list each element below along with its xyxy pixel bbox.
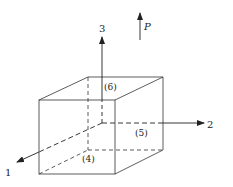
cube-stress-diagram: 3 2 1 P (6) (5) (4) <box>0 0 233 187</box>
axis-1-inner <box>39 123 102 152</box>
axis-2-label: 2 <box>207 119 213 130</box>
cube <box>39 77 163 174</box>
face-4-label: (4) <box>82 154 95 164</box>
face-5-label: (5) <box>135 128 148 138</box>
cube-front-face <box>39 100 115 174</box>
axis-1 <box>17 152 39 162</box>
axis-1-label: 1 <box>5 167 11 178</box>
axis-3-label: 3 <box>99 23 105 34</box>
load-label: P <box>143 21 151 32</box>
face-6-label: (6) <box>104 82 117 92</box>
